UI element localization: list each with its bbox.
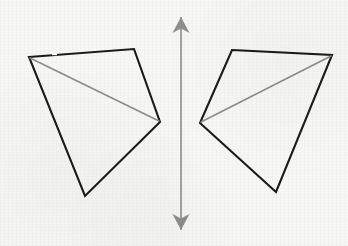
left-quadrilateral-outline: [29, 49, 160, 196]
mirror-symmetry-figure: Mirror symmetry figure Two congruent mir…: [0, 0, 348, 246]
right-diagonal-line: [201, 56, 331, 122]
left-quadrilateral-group: [29, 49, 160, 196]
figure-canvas: Mirror symmetry figure Two congruent mir…: [0, 0, 348, 246]
left-top-edge-gap: [52, 53, 57, 56]
right-quadrilateral-outline: [200, 50, 332, 192]
right-quadrilateral-group: [200, 50, 332, 192]
mirror-axis-arrow-group: [173, 17, 190, 230]
